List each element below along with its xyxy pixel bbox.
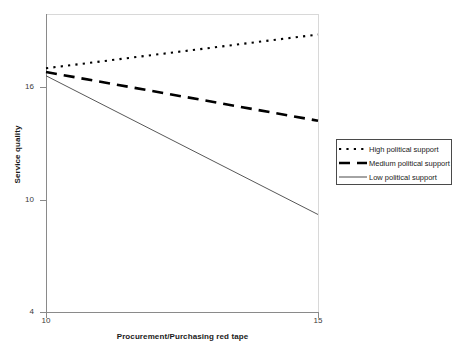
legend-swatch-dotted-line [337,143,369,155]
legend-label-low-political-support: Low political support [369,173,437,182]
legend-swatch-solid-line [337,171,369,183]
chart-legend: High political support Medium political … [336,139,452,185]
legend-item-high-political-support: High political support [337,142,453,156]
legend-label-high-political-support: High political support [369,145,439,154]
series-line-low-political-support [46,76,318,215]
legend-label-medium-political-support: Medium political support [369,159,450,168]
legend-item-low-political-support: Low political support [337,170,453,184]
legend-item-medium-political-support: Medium political support [337,156,453,170]
chart-figure: 16 10 4 10 15 Service quality Procuremen… [0,0,462,354]
series-line-high-political-support [46,35,318,69]
legend-swatch-dashed-line [337,157,369,169]
